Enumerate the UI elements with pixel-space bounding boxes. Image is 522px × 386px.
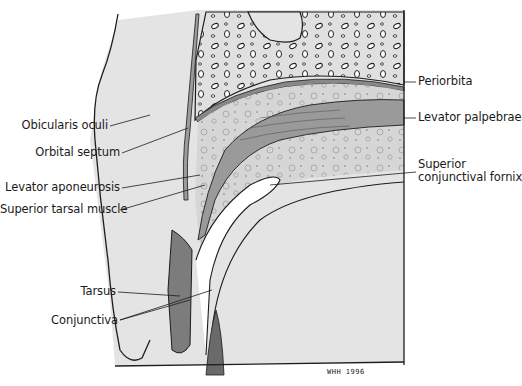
- label-levator-palpebrae: Levator palpebrae: [418, 111, 521, 124]
- label-levator-aponeurosis: Levator aponeurosis: [0, 181, 120, 194]
- label-superior-tarsal-muscle: Superior tarsal muscle: [0, 203, 118, 216]
- label-superior-conjunctival-fornix-line2: conjunctival fornix: [418, 171, 522, 184]
- artist-signature: WHH 1996: [327, 368, 365, 376]
- label-tarsus: Tarsus: [0, 285, 116, 298]
- label-obicularis-oculi: Obicularis oculi: [0, 119, 108, 132]
- tarsus-plate: [168, 230, 192, 353]
- label-orbital-septum: Orbital septum: [0, 146, 120, 159]
- label-conjunctiva: Conjunctiva: [0, 314, 118, 327]
- label-periorbita: Periorbita: [418, 75, 472, 88]
